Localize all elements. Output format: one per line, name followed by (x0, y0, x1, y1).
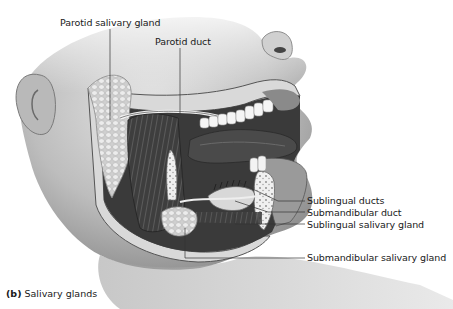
label-submandibular-duct: Submandibular duct (307, 208, 402, 218)
label-sublingual-ducts: Sublingual ducts (307, 196, 384, 206)
label-submandibular-salivary-gland: Submandibular salivary gland (307, 253, 446, 263)
label-parotid-duct: Parotid duct (155, 37, 211, 47)
figure-caption: (b) Salivary glands (6, 288, 97, 299)
label-sublingual-salivary-gland: Sublingual salivary gland (307, 220, 424, 230)
caption-text: Salivary glands (25, 288, 98, 299)
label-parotid-salivary-gland: Parotid salivary gland (60, 18, 160, 28)
caption-letter: (b) (6, 288, 21, 299)
